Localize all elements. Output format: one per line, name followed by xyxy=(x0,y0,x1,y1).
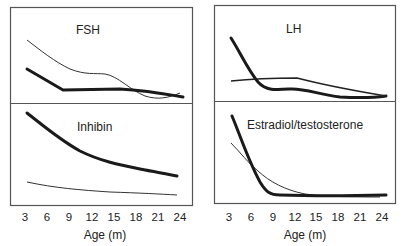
lh-thick-line xyxy=(231,38,386,98)
tick-label: 21 xyxy=(354,211,367,223)
panel-title-inhibin: Inhibin xyxy=(77,120,112,134)
tick-label: 15 xyxy=(108,211,121,223)
x-axis-left: 3 6 9 12 15 18 21 24 Age (m) xyxy=(22,211,187,242)
hormone-charts: FSH Inhibin 3 6 9 12 15 18 21 24 Age (m) xyxy=(0,0,403,246)
tick-label: 9 xyxy=(66,211,72,223)
fsh-thick-line xyxy=(27,69,183,97)
x-axis-label-left: Age (m) xyxy=(84,228,127,242)
panel-title-lh: LH xyxy=(286,22,301,36)
tick-label: 15 xyxy=(310,211,323,223)
panel-title-fsh: FSH xyxy=(76,23,100,37)
tick-label: 18 xyxy=(332,211,345,223)
lh-medium-line xyxy=(231,78,386,96)
tick-label: 6 xyxy=(248,211,254,223)
panel-lh: LH xyxy=(231,22,386,98)
tick-label: 9 xyxy=(270,211,276,223)
x-axis-right: 3 6 9 12 15 18 21 24 Age (m) xyxy=(226,211,389,242)
left-frame xyxy=(11,8,193,206)
tick-label: 21 xyxy=(152,211,165,223)
left-column: FSH Inhibin 3 6 9 12 15 18 21 24 Age (m) xyxy=(11,8,193,243)
right-frame xyxy=(215,6,396,204)
tick-label: 3 xyxy=(22,211,28,223)
x-axis-label-right: Age (m) xyxy=(284,228,327,242)
tick-label: 12 xyxy=(86,211,99,223)
panel-inhibin: Inhibin xyxy=(27,113,177,195)
right-column: LH Estradiol/testosterone 3 6 9 12 15 18… xyxy=(215,6,396,243)
panel-title-estradiol: Estradiol/testosterone xyxy=(247,118,363,132)
tick-label: 12 xyxy=(289,211,302,223)
tick-label: 6 xyxy=(44,211,50,223)
tick-label: 3 xyxy=(226,211,232,223)
tick-label: 18 xyxy=(130,211,143,223)
panel-fsh: FSH xyxy=(27,23,183,98)
tick-label: 24 xyxy=(376,211,389,223)
panel-estradiol: Estradiol/testosterone xyxy=(231,116,386,197)
tick-label: 24 xyxy=(174,211,187,223)
inhibin-thin-line xyxy=(27,182,177,195)
